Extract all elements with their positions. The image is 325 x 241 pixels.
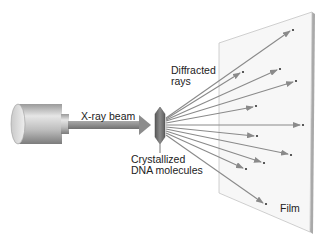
diffracted-rays-label-line2: rays <box>171 76 191 87</box>
diffraction-diagram <box>0 0 325 241</box>
x-ray-beam-label: X-ray beam <box>81 111 135 122</box>
film-label: Film <box>280 203 300 214</box>
dna-crystal <box>155 107 165 153</box>
film <box>219 12 315 234</box>
x-ray-source <box>11 104 69 144</box>
crystal-label-line2: DNA molecules <box>131 165 203 176</box>
